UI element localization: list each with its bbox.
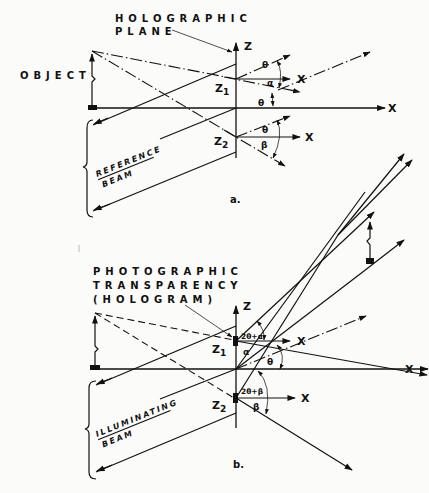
z2-label-b: Z2 [212, 399, 226, 414]
figure-b-caption: b. [233, 459, 244, 470]
reference-beam-bracket [83, 120, 93, 217]
z2-beta-label-a: β [261, 140, 268, 150]
figure-a-caption: a. [230, 194, 241, 205]
theta-label-b: θ [267, 357, 273, 367]
object-arrow [88, 54, 97, 110]
z-axis-label-a: Z [244, 40, 252, 53]
figure-a: HOLOGRAPHIC PLANE OBJECT Z X REFEREN [20, 13, 397, 217]
holographic-plane-pointer [172, 30, 232, 52]
z1-zero-order-ray [236, 341, 427, 375]
z-axis-label-b: Z [243, 300, 251, 313]
x-axis-label-b-visible: X [405, 363, 414, 376]
convergent-ray-upper-a [338, 154, 404, 235]
z1-angle-arc [277, 61, 281, 88]
convergent-ray-upper-b [338, 160, 412, 235]
transparency-label-line3: (HOLOGRAM) [93, 294, 217, 305]
z2-x-label-a: X [305, 131, 314, 144]
z1-label-a: Z1 [215, 82, 229, 97]
mid-theta-label-a: θ [258, 98, 264, 108]
transparency-label-line2: TRANSPARENCY [93, 280, 242, 291]
far-diffracted-ray [278, 52, 370, 90]
holographic-plane-label-line1: HOLOGRAPHIC [115, 13, 252, 24]
z2-ray-lower [224, 130, 285, 166]
reference-beam-middle [160, 108, 236, 139]
hologram-diagram: HOLOGRAPHIC PLANE OBJECT Z X REFEREN [0, 0, 429, 493]
z2-theta-label-a: θ [262, 125, 268, 135]
origin-ray-to-image-base [236, 271, 364, 369]
z1-label-b: Z1 [212, 343, 226, 358]
z2-angle-arc [273, 120, 280, 158]
z1-alpha-label-a: α [267, 78, 273, 88]
mid-angle-arc [272, 93, 273, 106]
z2-diffracted-ray-lower [236, 398, 352, 470]
z1-theta-label-a: θ [262, 60, 268, 70]
object-ray-to-z1 [92, 51, 236, 79]
z2-real-image-ray [236, 235, 338, 398]
z2-label-a: Z2 [214, 135, 228, 150]
real-image-arrow [366, 222, 374, 264]
holographic-plane-label-line2: PLANE [115, 26, 177, 37]
illuminating-beam-middle [160, 369, 236, 399]
z2-angle-label-b: 2θ+β [241, 387, 264, 396]
figure-b: PHOTOGRAPHIC TRANSPARENCY (HOLOGRAM) Z X… [85, 154, 428, 479]
transparency-pointer [185, 305, 232, 337]
z2-x-label-b: X [301, 392, 310, 405]
transparency-label-line1: PHOTOGRAPHIC [93, 266, 243, 277]
illuminating-beam-label-line1: ILLUMINATING [94, 398, 179, 439]
object-label: OBJECT [20, 70, 91, 81]
x-axis-label-a: X [388, 102, 397, 115]
virtual-object-arrow [90, 316, 100, 370]
